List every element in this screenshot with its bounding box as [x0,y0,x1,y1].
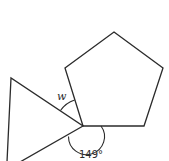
geometry-diagram: w 149° [0,0,169,161]
regular-pentagon [65,32,163,126]
angle-w-label: w [57,90,67,103]
angle-149-label: 149° [79,149,103,160]
